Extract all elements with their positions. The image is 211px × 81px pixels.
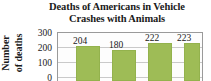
chart-title: Deaths of Americans in Vehicle Crashes w… [26,1,208,24]
y-axis-title: Number of deaths [0,28,26,81]
bar-1 [76,46,100,81]
bar-label-4: 223 [167,33,201,43]
y-tick-label-300: 300 [26,28,52,38]
y-tick-label-0: 0 [26,73,52,81]
bar-label-2: 180 [99,40,133,50]
bar-2 [112,50,136,81]
y-tick-label-100: 100 [26,58,52,68]
chart-title-line-1: Deaths of Americans in Vehicle [49,1,185,12]
chart-title-line-2: Crashes with Animals [26,13,208,25]
bar-label-1: 204 [63,36,97,46]
bar-3 [148,43,172,81]
y-axis-title-line-1: Number [0,25,13,81]
y-tick-label-200: 200 [26,43,52,53]
bar-label-3: 222 [135,33,169,43]
y-axis-title-line-2: of deaths [13,25,26,81]
bar-4 [184,43,200,81]
chart-screenshot: Deaths of Americans in Vehicle Crashes w… [0,0,211,81]
